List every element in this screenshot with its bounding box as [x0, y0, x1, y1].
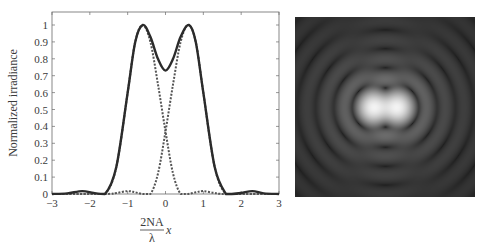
- x-axis-label: 2NA λ x: [140, 215, 172, 245]
- x-axis-label-variable: x: [165, 223, 172, 237]
- x-tick-label: 2: [238, 197, 244, 209]
- x-tick-label: 1: [201, 197, 207, 209]
- y-axis-label: Normalized irradiance: [6, 49, 20, 157]
- y-tick-label: 0.1: [34, 171, 48, 183]
- x-axis-ticks: −3−2−10123: [46, 12, 282, 209]
- y-tick-label: 0.8: [34, 53, 48, 65]
- y-tick-label: 0.9: [34, 36, 48, 48]
- plot-axes: [52, 12, 279, 194]
- y-tick-label: 0.7: [34, 70, 48, 82]
- y-tick-label: 0.3: [34, 137, 48, 149]
- x-tick-label: 3: [276, 197, 282, 209]
- sum-curve: [52, 25, 279, 194]
- y-axis-ticks: 00.10.20.30.40.50.60.70.80.91: [34, 19, 279, 200]
- axes-box: [52, 12, 279, 194]
- airy-pattern-canvas: [295, 17, 475, 197]
- y-tick-label: 1: [43, 19, 49, 31]
- plot-curves: [52, 25, 279, 194]
- x-tick-label: −3: [46, 197, 58, 209]
- y-tick-label: 0.4: [34, 120, 48, 132]
- y-tick-label: 0.5: [34, 104, 48, 116]
- x-tick-label: 0: [163, 197, 169, 209]
- right-source-curve: [52, 25, 279, 194]
- x-tick-label: −2: [84, 197, 96, 209]
- y-tick-label: 0.6: [34, 87, 48, 99]
- x-tick-label: −1: [122, 197, 134, 209]
- airy-pattern-image: [295, 17, 475, 197]
- x-axis-label-denominator: λ: [149, 231, 155, 245]
- x-axis-label-numerator: 2NA: [140, 215, 164, 229]
- left-source-curve: [52, 25, 279, 194]
- y-tick-label: 0.2: [34, 154, 48, 166]
